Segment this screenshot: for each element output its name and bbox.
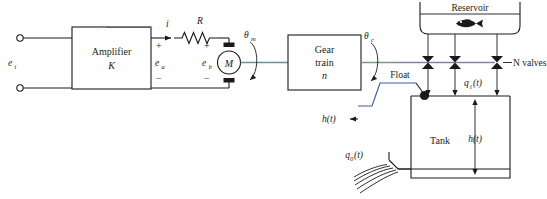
rotation-arrowhead-motor [250, 74, 256, 80]
outflow-arg: (t) [354, 150, 363, 161]
control-angle-label: θ [364, 31, 369, 41]
input-voltage-sub: i [15, 63, 17, 70]
valves-count-label: N valves [513, 58, 547, 68]
float-label: Float [390, 70, 410, 80]
resistor-icon [174, 33, 218, 44]
amplifier-label-line2: K [107, 60, 116, 71]
height-leader-arrow [350, 116, 356, 121]
motor-label: M [224, 58, 234, 69]
diagram-canvas: e i Amplifier K i R + e a − + e b − [0, 0, 547, 199]
motor-angle-label: θ [244, 30, 249, 40]
rotation-arrow-icon-motor [250, 42, 257, 80]
inflow-sub: i [470, 83, 472, 90]
outflow-spout [389, 160, 411, 169]
outflow-group: q 0 (t) [345, 150, 510, 193]
gear-train-label-line2: train [315, 57, 333, 68]
reservoir-group: Reservoir [420, 2, 520, 34]
eb-plus-sign: + [204, 40, 210, 51]
amplifier-block: Amplifier K [72, 27, 151, 89]
ea-sub: a [162, 63, 165, 70]
terminal-icon-bottom [17, 85, 23, 91]
ea-plus-sign: + [156, 40, 162, 51]
height-left-label: h(t) [322, 114, 336, 125]
resistance-label: R [196, 16, 203, 26]
eb-sub: b [209, 63, 213, 70]
liquid-level-control-diagram: e i Amplifier K i R + e a − + e b − [0, 0, 547, 199]
tank-label: Tank [430, 135, 450, 146]
eb-label: e [202, 58, 206, 68]
gear-train-label-line1: Gear [315, 44, 335, 55]
outflow-hatch-icon [354, 165, 398, 194]
amplifier-box [72, 27, 151, 89]
control-angle-sub: c [371, 36, 374, 43]
inflow-label: q [464, 78, 469, 88]
motor-brush-top-icon [224, 43, 235, 48]
gear-train-label-line3: n [322, 70, 327, 81]
inflow-arg: (t) [473, 78, 482, 89]
float-arm-linkage [358, 83, 416, 106]
tank-vessel [411, 96, 510, 178]
ea-minus-sign: − [156, 73, 162, 84]
gear-train-block: Gear train n [288, 35, 361, 90]
input-voltage-label: e [8, 58, 12, 68]
input-terminals-group: e i [8, 35, 72, 91]
reservoir-label: Reservoir [452, 3, 490, 13]
tank-group: Tank h(t) [411, 96, 510, 178]
tank-height-arrow-bottom [472, 169, 477, 175]
ea-label: e [155, 58, 159, 68]
armature-circuit-group: i R + e a − + e b − [151, 16, 229, 88]
inflow-arrow-2 [452, 90, 457, 96]
inflow-arrow-3 [494, 90, 499, 96]
rotation-arrowhead-control [371, 75, 377, 81]
motor-shaft-group: θ m [241, 30, 289, 80]
valve-pipes-group [428, 34, 497, 56]
motor-angle-sub: m [251, 35, 256, 42]
terminal-icon-top [17, 35, 23, 41]
motor-group: M [218, 43, 241, 83]
armature-current-label: i [166, 19, 169, 29]
inflow-group: q i (t) [425, 69, 499, 96]
current-arrow-icon [165, 35, 171, 40]
motor-brush-bottom-icon [224, 78, 235, 83]
eb-minus-sign: − [204, 73, 210, 84]
amplifier-label-line1: Amplifier [92, 46, 132, 57]
tank-height-arrow-top [472, 99, 477, 105]
height-right-label: h(t) [468, 134, 482, 145]
